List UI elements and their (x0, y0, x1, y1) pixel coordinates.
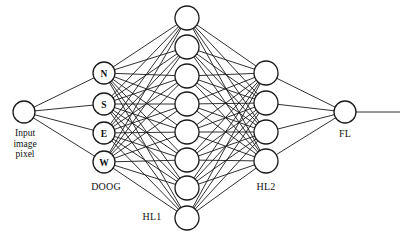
edge-hl2-2-to-fl-0 (278, 115, 335, 129)
node-hl1-6[interactable] (175, 176, 199, 200)
node-hl1-3[interactable] (175, 92, 199, 116)
node-hl2-0[interactable] (254, 61, 278, 85)
node-hl2-3[interactable] (254, 149, 278, 173)
node-label-doog-2: E (101, 129, 107, 139)
node-hl1-2[interactable] (175, 64, 199, 88)
edge-doog-2-to-hl1-4 (115, 132, 175, 133)
edge-hl2-3-to-fl-0 (276, 118, 335, 155)
edge-hl1-7-to-hl2-2 (195, 141, 258, 209)
layer-label-doog: DOOG (91, 181, 121, 192)
edge-doog-0-to-hl1-2 (115, 73, 175, 75)
nodes-group: NSEW (13, 6, 356, 230)
layer-label-fl: FL (339, 128, 351, 139)
node-hl1-0[interactable] (175, 6, 199, 30)
node-hl1-5[interactable] (175, 148, 199, 172)
node-label-doog-3: W (99, 158, 109, 168)
layer-label-hl2: HL2 (257, 181, 276, 192)
node-label-doog-0: N (101, 69, 108, 79)
edge-input-0-to-doog-1 (35, 105, 93, 111)
edge-doog-0-to-hl1-6 (110, 82, 180, 178)
node-fl-0[interactable] (334, 101, 356, 123)
node-hl1-7[interactable] (175, 206, 199, 230)
edge-hl2-0-to-fl-0 (277, 78, 335, 107)
network-graph-svg: NSEW DOOGHL1HL2FL (0, 0, 402, 238)
node-label-doog-1: S (101, 100, 106, 110)
input-layer-caption: Input image pixel (2, 128, 48, 160)
node-hl1-4[interactable] (175, 120, 199, 144)
neural-network-diagram: NSEW DOOGHL1HL2FL Input image pixel (0, 0, 402, 238)
edge-doog-1-to-hl1-6 (112, 112, 179, 180)
node-input-0[interactable] (13, 101, 35, 123)
node-hl2-1[interactable] (254, 91, 278, 115)
layer-label-hl1: HL1 (143, 211, 162, 222)
edge-hl2-1-to-fl-0 (278, 104, 334, 110)
edge-input-0-to-doog-0 (34, 78, 94, 107)
edge-doog-0-to-hl1-3 (114, 77, 175, 100)
node-hl2-2[interactable] (254, 120, 278, 144)
edge-hl1-1-to-hl2-0 (198, 51, 254, 69)
node-hl1-1[interactable] (175, 35, 199, 59)
